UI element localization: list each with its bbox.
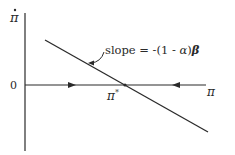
equilibrium-label: π* xyxy=(106,88,119,103)
phase-diagram: π 0 π π* slope = -(1 - α)β xyxy=(0,0,235,155)
y-axis-label: π xyxy=(9,10,19,25)
y-axis-label-dot xyxy=(14,9,16,11)
equilibrium-point xyxy=(123,83,126,86)
slope-annotation: slope = -(1 - α)β xyxy=(105,43,200,57)
origin-label: 0 xyxy=(10,79,17,92)
arrow-right-icon xyxy=(68,82,76,88)
arrow-left-icon xyxy=(172,82,180,88)
x-axis-label: π xyxy=(206,85,216,99)
